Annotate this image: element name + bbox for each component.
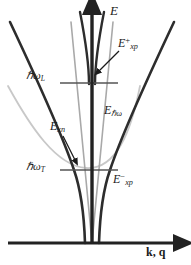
upper-polariton-branch-right [95,12,104,84]
exciton-curve-label: Exn [50,120,65,134]
polariton-dispersion-figure: E E+xp ℏωL Eℏω Exn ℏωT E−xp k, q [0,0,191,265]
upper-polariton-branch-label: E+xp [118,36,138,51]
level-label-hw-T: ℏωT [26,161,45,174]
wavevector-axis-label: k, q [146,246,165,258]
upper-polariton-branch-left [80,12,89,84]
energy-axis-label: E [110,4,118,17]
level-label-hw-L: ℏωL [26,70,45,83]
photon-line-label: Eℏω [104,104,122,118]
exciton-parabola-curve [8,86,140,168]
lower-polariton-branch-label: E−xp [113,172,133,187]
dispersion-plot [0,0,191,265]
